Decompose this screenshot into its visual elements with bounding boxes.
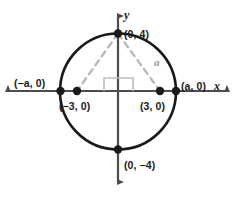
point-right-radius xyxy=(172,87,180,95)
label-right-inner-point: (3, 0) xyxy=(140,101,165,112)
circle-coordinate-figure: y x (0, 4) (0, −4) (−a, 0) (a, 0) (−3, 0… xyxy=(0,0,235,197)
label-top-point: (0, 4) xyxy=(124,29,149,40)
point-left-radius xyxy=(56,87,64,95)
figure-canvas xyxy=(0,0,235,197)
point-bottom xyxy=(114,145,122,153)
label-left-radius-point: (−a, 0) xyxy=(14,78,45,89)
x-axis-label: x xyxy=(214,80,220,92)
label-right-radius-point: (a, 0) xyxy=(181,81,206,92)
label-bottom-point: (0, −4) xyxy=(124,160,155,171)
y-axis-label: y xyxy=(124,9,129,21)
point-top xyxy=(114,29,122,37)
dashed-segment-left xyxy=(77,34,118,92)
label-left-inner-point: (−3, 0) xyxy=(59,101,90,112)
point-right-inner xyxy=(156,87,164,95)
label-radius-segment: a xyxy=(154,57,160,68)
point-left-inner xyxy=(73,87,81,95)
